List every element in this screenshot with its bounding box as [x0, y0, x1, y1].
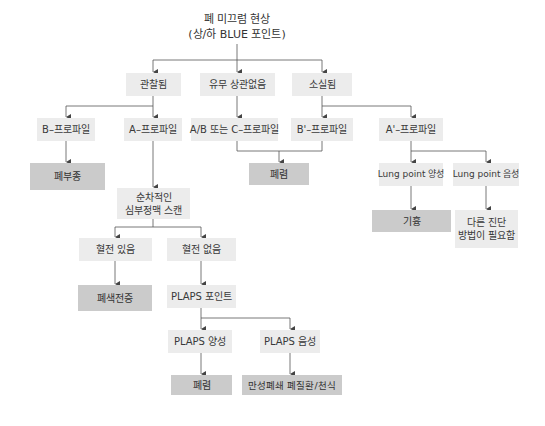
outcome-copd-asthma: 만성폐쇄 폐질환/천식: [242, 375, 342, 395]
node-b-profile: B–프로파일: [37, 118, 95, 141]
other-dx-line2: 방법이 필요함: [458, 229, 515, 242]
node-absent: 소실됨: [292, 73, 352, 96]
root-title-line2: (상/하 BLUE 포인트): [167, 27, 307, 42]
node-venous-scan: 순차적인 심부정맥 스캔: [117, 188, 190, 219]
other-dx-line1: 다른 진단: [467, 216, 506, 229]
outcome-pneumothorax: 기흉: [372, 210, 451, 232]
node-lung-point-negative: Lung point 음성: [453, 163, 519, 186]
node-ab-c-profile: A/B 또는 C–프로파일: [191, 118, 278, 141]
node-either: 유무 상관없음: [200, 73, 275, 96]
node-thrombosis-yes: 혈전 있음: [79, 238, 152, 261]
outcome-pulmonary-embolism: 폐색전증: [78, 285, 152, 311]
outcome-pneumonia-2: 폐렴: [171, 375, 232, 395]
node-observed: 관찰됨: [126, 73, 181, 96]
node-plaps-point: PLAPS 포인트: [167, 285, 236, 308]
outcome-pulmonary-edema: 폐부종: [30, 163, 105, 190]
node-thrombosis-no: 혈전 없음: [167, 238, 236, 261]
node-b-prime-profile: B'–프로파일: [291, 118, 353, 141]
venous-scan-line2: 심부정맥 스캔: [125, 204, 182, 217]
venous-scan-line1: 순차적인: [136, 191, 172, 204]
node-other-diagnosis: 다른 진단 방법이 필요함: [455, 210, 518, 248]
root-node-lung-sliding: 폐 미끄럼 현상 (상/하 BLUE 포인트): [167, 12, 307, 42]
node-a-prime-profile: A'–프로파일: [379, 118, 443, 141]
node-lung-point-positive: Lung point 양성: [379, 163, 443, 186]
node-plaps-positive: PLAPS 양성: [168, 330, 232, 353]
outcome-pneumonia-1: 폐렴: [249, 163, 309, 185]
node-a-profile: A–프로파일: [124, 118, 182, 141]
root-title-line1: 폐 미끄럼 현상: [167, 12, 307, 27]
node-plaps-negative: PLAPS 음성: [260, 330, 320, 353]
